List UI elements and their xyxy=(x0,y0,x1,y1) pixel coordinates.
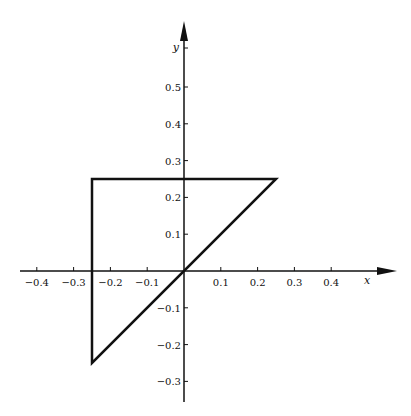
y-tick-label: 0.3 xyxy=(165,156,181,167)
coordinate-diagram: −0.4−0.3−0.2−0.10.10.20.30.4x 0.50.40.30… xyxy=(0,0,411,416)
y-tick-label: 0.5 xyxy=(165,82,181,93)
y-axis-arrow-icon xyxy=(180,21,188,41)
x-tick-label: 0.4 xyxy=(323,277,339,288)
y-tick-label: 0.2 xyxy=(165,192,181,203)
x-tick-label: 0.3 xyxy=(286,277,302,288)
y-tick-label: −0.2 xyxy=(157,340,181,351)
y-axis-label: y xyxy=(172,41,180,54)
y-tick-label: 0.1 xyxy=(165,229,181,240)
x-axis-arrow-icon xyxy=(377,267,397,275)
x-tick-label: 0.1 xyxy=(213,277,229,288)
y-axis: 0.50.40.30.20.1−0.1−0.2−0.3y xyxy=(157,21,188,402)
x-axis-label: x xyxy=(364,274,371,287)
y-tick-label: −0.3 xyxy=(157,376,181,387)
x-axis: −0.4−0.3−0.2−0.10.10.20.30.4x xyxy=(20,267,397,288)
y-tick-label: −0.1 xyxy=(157,303,181,314)
x-tick-label: −0.2 xyxy=(98,277,122,288)
x-tick-label: −0.3 xyxy=(61,277,85,288)
x-tick-label: −0.4 xyxy=(25,277,49,288)
y-tick-label: 0.4 xyxy=(165,119,181,130)
x-tick-label: −0.1 xyxy=(135,277,159,288)
x-tick-label: 0.2 xyxy=(250,277,266,288)
